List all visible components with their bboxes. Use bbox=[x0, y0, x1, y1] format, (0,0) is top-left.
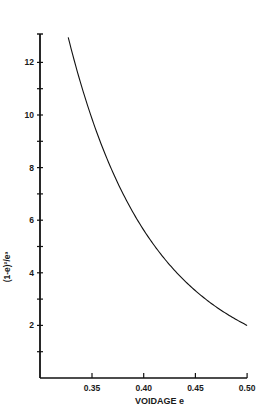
x-tick-label: 0.45 bbox=[187, 383, 204, 393]
voidage-curve bbox=[68, 37, 247, 325]
x-tick-label: 0.50 bbox=[239, 383, 256, 393]
x-tick-label: 0.40 bbox=[135, 383, 152, 393]
x-tick-label: 0.35 bbox=[84, 383, 101, 393]
axes bbox=[37, 34, 247, 378]
y-tick-label: 6 bbox=[29, 215, 34, 225]
y-tick-label: 10 bbox=[25, 110, 35, 120]
data-curve bbox=[68, 37, 247, 325]
y-tick-label: 12 bbox=[25, 57, 35, 67]
y-tick-label: 4 bbox=[29, 268, 34, 278]
y-tick-label: 8 bbox=[29, 163, 34, 173]
y-tick-label: 2 bbox=[29, 320, 34, 330]
x-axis-label: VOIDAGE e bbox=[135, 396, 184, 406]
y-axis-label: (1-e)²/e³ bbox=[2, 252, 12, 283]
voidage-chart: 246810120.350.400.450.50 bbox=[0, 0, 273, 419]
